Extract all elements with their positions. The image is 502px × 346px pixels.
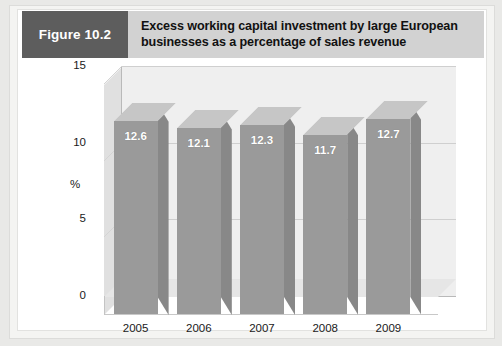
y-axis-tick-10: 10 [73, 136, 86, 148]
bar-side-face-2009 [410, 102, 421, 315]
bar-2008[interactable]: 11.7 [303, 67, 365, 314]
bar-front-face-2008 [303, 135, 347, 314]
bar-2007[interactable]: 12.3 [240, 67, 302, 314]
bar-value-label-2008: 11.7 [303, 144, 347, 156]
chart-area: 051015 % 12.612.112.311.712.7 2005200620… [22, 60, 484, 326]
x-axis-label-2008: 2008 [294, 322, 357, 334]
bar-value-label-2007: 12.3 [240, 134, 284, 146]
bar-2009[interactable]: 12.7 [366, 67, 428, 314]
x-axis-line-front [104, 314, 438, 315]
y-axis-tick-5: 5 [80, 212, 86, 224]
x-axis-label-2007: 2007 [230, 322, 293, 334]
bar-side-face-2005 [158, 104, 169, 315]
figure-number-label: Figure 10.2 [39, 27, 111, 42]
figure-number-tag: Figure 10.2 [22, 11, 128, 58]
bar-side-face-2007 [284, 108, 295, 315]
bar-value-label-2005: 12.6 [114, 130, 158, 142]
figure-title-text: Excess working capital investment by lar… [141, 19, 476, 50]
figure-header-band: Figure 10.2 Excess working capital inves… [22, 11, 484, 58]
bar-front-face-2006 [177, 128, 221, 314]
bar-side-face-2006 [221, 111, 232, 315]
y-axis-title: % [70, 178, 80, 190]
bar-value-label-2009: 12.7 [366, 128, 410, 140]
y-axis-tick-15: 15 [73, 59, 86, 71]
bar-front-face-2005 [114, 121, 158, 314]
x-axis-tick-labels: 20052006200720082009 [104, 322, 456, 342]
bar-2006[interactable]: 12.1 [177, 67, 239, 314]
bar-2005[interactable]: 12.6 [114, 67, 176, 314]
bar-value-label-2006: 12.1 [177, 137, 221, 149]
figure-title-container: Excess working capital investment by lar… [128, 11, 484, 58]
x-axis-label-2009: 2009 [357, 322, 420, 334]
bar-side-face-2008 [347, 118, 358, 315]
bar-front-face-2009 [366, 119, 410, 314]
bar-front-face-2007 [240, 125, 284, 314]
plot-3d-box: 12.612.112.311.712.7 [104, 67, 456, 317]
y-axis-tick-0: 0 [80, 289, 86, 301]
x-axis-label-2005: 2005 [104, 322, 167, 334]
x-axis-label-2006: 2006 [167, 322, 230, 334]
y-axis-tick-labels: 051015 [60, 60, 86, 326]
page-background: Figure 10.2 Excess working capital inves… [0, 0, 502, 346]
